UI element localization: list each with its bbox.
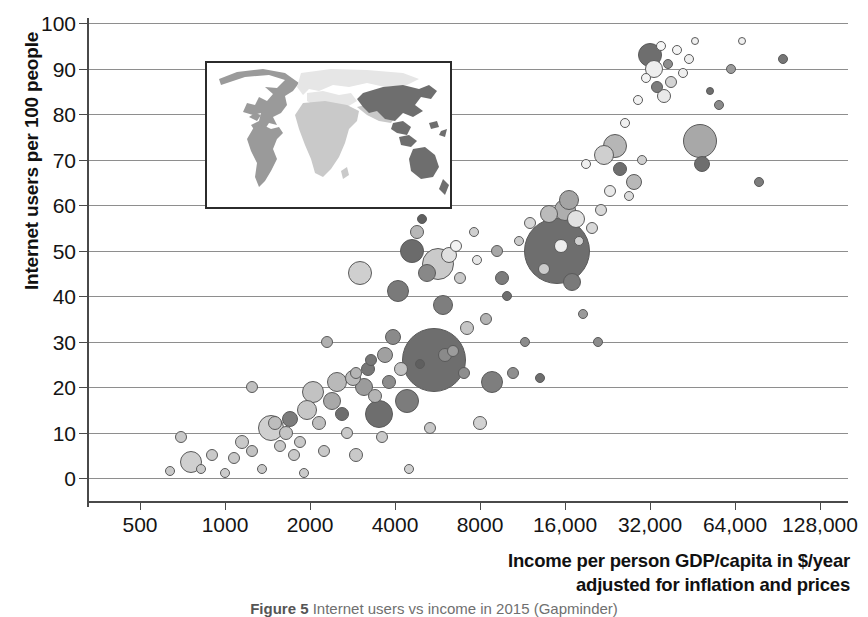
bubble-point (594, 145, 614, 165)
x-axis-title-line-1: Income per person GDP/capita in $/year (380, 549, 850, 573)
bubble-point (299, 468, 309, 478)
bubble-point (520, 337, 530, 347)
bubble-point (656, 41, 666, 51)
bubble-point (282, 411, 298, 427)
gridline-y-10 (88, 433, 848, 434)
gridline-y-100 (88, 23, 848, 24)
y-tick-label-100: 100 (41, 13, 76, 34)
y-tick-30 (79, 342, 89, 343)
x-tick-label-4000: 4000 (372, 514, 419, 535)
bubble-point (778, 54, 788, 64)
bubble-point (586, 222, 598, 234)
gridline-y-60 (88, 205, 848, 206)
bubble-point (665, 76, 677, 88)
bubble-point (641, 73, 651, 83)
y-tick-label-80: 80 (53, 104, 76, 125)
inset-world-map (205, 61, 452, 209)
bubble-point (535, 373, 545, 383)
bubble-point (714, 100, 724, 110)
bubble-point (613, 162, 627, 176)
gridline-y-40 (88, 296, 848, 297)
bubble-point (279, 426, 293, 440)
bubble-point (581, 159, 591, 169)
map-region-americas (219, 69, 299, 187)
bubble-point (318, 445, 330, 457)
y-tick-90 (79, 69, 89, 70)
x-tick-4000 (395, 501, 396, 510)
bubble-point (574, 236, 584, 246)
bubble-point (312, 416, 326, 430)
bubble-point (593, 337, 603, 347)
x-tick-label-1000: 1000 (202, 514, 249, 535)
bubble-point (220, 468, 230, 478)
y-tick-label-40: 40 (53, 286, 76, 307)
world-map-svg (207, 63, 450, 207)
bubble-point (540, 205, 558, 223)
bubble-point (400, 239, 424, 263)
bubble-point (480, 313, 492, 325)
x-tick-label-500: 500 (122, 514, 157, 535)
y-tick-label-30: 30 (53, 331, 76, 352)
x-axis-line (87, 501, 848, 503)
bubble-point (365, 354, 377, 366)
bubble-point (395, 389, 419, 413)
bubble-point (454, 272, 466, 284)
bubble-point (382, 375, 396, 389)
bubble-point (554, 239, 568, 253)
x-tick-label-32000: 32,000 (618, 514, 682, 535)
bubble-point (706, 87, 714, 95)
x-tick-label-8000: 8000 (457, 514, 504, 535)
bubble-point (288, 449, 300, 461)
bubble-point (495, 271, 509, 285)
bubble-point (538, 263, 550, 275)
y-tick-label-90: 90 (53, 58, 76, 79)
bubble-point (472, 255, 482, 265)
y-tick-label-10: 10 (53, 422, 76, 443)
bubble-point (165, 466, 175, 476)
x-tick-label-128000: 128,000 (782, 514, 858, 535)
x-tick-64000 (735, 501, 736, 510)
bubble-point (415, 359, 425, 369)
x-tick-label-64000: 64,000 (703, 514, 767, 535)
y-tick-label-60: 60 (53, 195, 76, 216)
y-tick-100 (79, 23, 89, 24)
y-axis-title: Internet users per 100 people (21, 1, 43, 321)
bubble-point (694, 156, 710, 172)
bubble-point (365, 400, 393, 428)
bubble-point (196, 464, 206, 474)
plot-area: 0102030405060708090100 (88, 23, 848, 478)
gridline-y-20 (88, 387, 848, 388)
x-axis-title: Income per person GDP/capita in $/yearad… (380, 549, 850, 596)
bubble-point (402, 328, 466, 392)
caption-text: Internet users vs income in 2015 (Gapmin… (313, 600, 618, 617)
x-tick-32000 (650, 501, 651, 510)
bubble-point (348, 261, 372, 285)
bubble-point (394, 362, 408, 376)
x-axis-title-line-2: adjusted for inflation and prices (380, 573, 850, 597)
bubble-point (491, 245, 503, 257)
y-tick-label-70: 70 (53, 149, 76, 170)
bubble-point (368, 389, 382, 403)
bubble-point (651, 81, 663, 93)
bubble-point (257, 464, 267, 474)
bubble-point (672, 45, 682, 55)
caption-figure-number: Figure 5 (250, 600, 308, 617)
bubble-point (424, 422, 436, 434)
y-tick-label-20: 20 (53, 377, 76, 398)
bubble-point (683, 124, 717, 158)
bubble-point (563, 273, 581, 291)
bubble-point (604, 185, 616, 197)
bubble-point (473, 416, 487, 430)
gridline-y-0 (88, 478, 848, 479)
bubble-point (458, 367, 470, 379)
bubble-point (376, 431, 388, 443)
bubble-point (637, 155, 647, 165)
bubble-point (678, 68, 688, 78)
bubble-point (481, 371, 503, 393)
bubble-point (514, 236, 524, 246)
bubble-point (726, 64, 736, 74)
bubble-point (228, 452, 240, 464)
bubble-point (626, 174, 642, 190)
bubble-point (595, 204, 607, 216)
bubble-point (663, 59, 673, 69)
